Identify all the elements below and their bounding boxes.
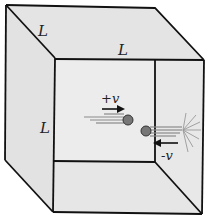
cube-svg: L L L +v bbox=[0, 0, 208, 219]
cube-diagram: L L L +v bbox=[0, 0, 208, 219]
velocity-label-positive: +v bbox=[101, 91, 120, 106]
edge-label-top-left: L bbox=[37, 22, 48, 40]
molecule-icon bbox=[123, 115, 133, 125]
velocity-label-negative: -v bbox=[161, 148, 173, 163]
molecule-icon bbox=[141, 126, 151, 136]
edge-label-left-front: L bbox=[39, 119, 50, 137]
edge-label-top-front: L bbox=[117, 41, 128, 59]
